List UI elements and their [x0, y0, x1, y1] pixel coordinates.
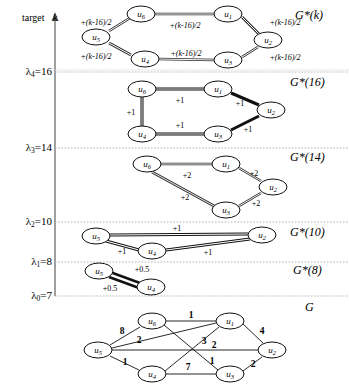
graph-g16-edges [142, 89, 259, 134]
threshold-label-lambda0: λ0=7 [8, 289, 52, 303]
edge-label-g16-u1u2: +1 [236, 99, 245, 108]
axis-target-text: target [22, 12, 45, 23]
threshold-lambda3-eq: =14 [35, 141, 52, 153]
threshold-label-lambda4: λ4=16 [8, 65, 52, 79]
weight-g-u1u2: 4 [260, 326, 265, 336]
edge-label-g16-u4u6: +1 [127, 108, 136, 117]
edge-label-g14-u1u2: +2 [250, 169, 259, 178]
threshold-lambda2-eq: =10 [35, 215, 52, 227]
threshold-label-lambda1: λ1=8 [8, 255, 52, 269]
edge-label-g10-u5u4: +1 [118, 247, 127, 256]
graph-g8-nodes [85, 263, 165, 295]
edge-label-g8-upper: +0.5 [135, 265, 150, 274]
axis-variable-text: k [53, 12, 57, 23]
figure-canvas: target k λ4=16 λ3=14 λ2=10 λ1=8 λ0=7 G*(… [0, 0, 349, 389]
weight-g-u5u6: 8 [120, 326, 125, 336]
graph-g14-edges [152, 164, 261, 207]
threshold-lambda4-eq: =16 [35, 65, 52, 77]
threshold-label-lambda3: λ3=14 [8, 141, 52, 155]
edge-label-g14-u6u1: +2 [183, 171, 192, 180]
weight-g-u3u2: 2 [251, 359, 256, 369]
weight-g-u5u1: 2 [137, 335, 142, 345]
edge-label-g14-u6u3: +2 [181, 193, 190, 202]
threshold-lambda1-eq: =8 [40, 255, 52, 267]
edge-label-g10-u4u2: +1 [204, 248, 213, 257]
edge-label-gk-u6u1: +(k-16)/2 [169, 21, 200, 30]
threshold-label-lambda2: λ2=10 [8, 215, 52, 229]
edge-label-gk-u2u3: +(k-16)/2 [269, 53, 300, 62]
weight-g-u5u2: 2 [212, 340, 217, 350]
graph-g10-edges [106, 234, 250, 250]
vertical-axis [52, 12, 59, 296]
graph-caption-g: G [305, 300, 314, 315]
threshold-lambda0-eq: =7 [40, 289, 52, 301]
edge-label-g16-u3u4: +1 [176, 121, 185, 130]
graph-caption-g14: G*(14) [290, 150, 325, 165]
edge-label-g14-u2u3: +2 [252, 199, 261, 208]
edge-label-gk-u5u6: +(k-16)/2 [80, 18, 111, 27]
edge-label-g8-lower: +0.5 [103, 284, 118, 293]
edge-label-g16-u6u1: +1 [176, 96, 185, 105]
graph-caption-g10: G*(10) [290, 225, 325, 240]
weight-g-u4u1: 1 [210, 356, 215, 366]
graph-caption-g16: G*(16) [290, 75, 325, 90]
edge-label-g10-u5u2: +1 [173, 224, 182, 233]
edge-label-gk-u3u4: +(k-16)/2 [170, 49, 201, 58]
weight-g-u5u4: 1 [123, 357, 128, 367]
edge-label-gk-u4u5: +(k-16)/2 [80, 52, 111, 61]
weight-g-u6u1: 1 [189, 310, 194, 320]
edge-label-gk-u1u2: +(k-16)/2 [269, 18, 300, 27]
graph-g16-nodes [128, 81, 285, 142]
graph-caption-g8: G*(8) [293, 263, 322, 278]
axis-target-label: target k [22, 12, 58, 23]
weight-g-u6u3: 3 [202, 336, 207, 346]
edge-label-g16-u2u3: +1 [244, 125, 253, 134]
weight-g-u4u3: 7 [186, 362, 191, 372]
